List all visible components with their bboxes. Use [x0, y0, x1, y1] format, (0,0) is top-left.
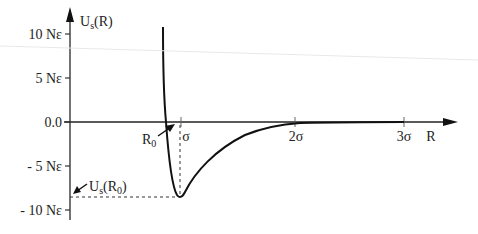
r0-label: R0: [142, 132, 156, 149]
x-tick-2sigma: 2σ: [289, 129, 304, 144]
y-tick-5: 5 Nε: [36, 71, 63, 86]
y-axis-arrow-icon: [66, 7, 74, 22]
scan-artifact: [0, 46, 478, 60]
umin-arrow-head-icon: [73, 186, 81, 194]
potential-curve: [163, 27, 404, 197]
y-tick-0: 0.0: [45, 115, 63, 130]
y-tick-10: 10 Nε: [29, 27, 63, 42]
umin-label: Us(R0): [89, 179, 127, 196]
x-axis-title: R: [426, 129, 436, 144]
y-axis-title: Us(R): [80, 14, 113, 31]
x-tick-sigma: σ: [182, 129, 190, 144]
y-tick-minus5: - 5 Nε: [27, 159, 62, 174]
x-tick-3sigma: 3σ: [397, 129, 412, 144]
potential-diagram: 10 Nε 5 Nε 0.0 - 5 Nε - 10 Nε Us(R) σ 2σ…: [0, 0, 478, 234]
x-axis-arrow-icon: [443, 118, 458, 126]
y-tick-minus10: - 10 Nε: [20, 203, 62, 218]
